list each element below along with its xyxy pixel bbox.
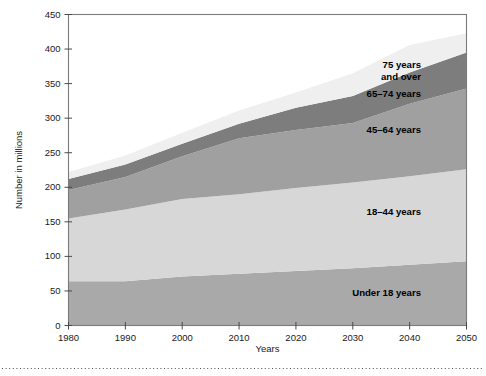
- x-tick-label: 2000: [172, 332, 193, 343]
- series-label: 45–64 years: [367, 124, 421, 135]
- x-tick-label: 2030: [342, 332, 363, 343]
- series-label: 65–74 years: [367, 88, 421, 99]
- y-tick-label: 50: [50, 285, 61, 296]
- y-tick-label: 0: [55, 320, 60, 331]
- series-label: Under 18 years: [352, 287, 421, 298]
- x-axis-title: Years: [256, 343, 280, 354]
- y-tick-label: 450: [45, 9, 61, 20]
- y-tick-label: 200: [45, 181, 61, 192]
- x-tick-label: 2020: [285, 332, 306, 343]
- x-tick-label: 2050: [456, 332, 477, 343]
- y-tick-label: 100: [45, 250, 61, 261]
- series-label: 18–44 years: [367, 206, 421, 217]
- x-tick-label: 1990: [115, 332, 136, 343]
- y-tick-label: 150: [45, 216, 61, 227]
- y-tick-label: 250: [45, 147, 61, 158]
- series-label: 75 yearsand over: [381, 59, 421, 82]
- y-tick-label: 400: [45, 43, 61, 54]
- y-tick-label: 350: [45, 78, 61, 89]
- x-tick-label: 1980: [58, 332, 79, 343]
- x-tick-label: 2010: [229, 332, 250, 343]
- y-axis-title: Number in millions: [13, 131, 24, 209]
- x-tick-label: 2040: [399, 332, 420, 343]
- chart-figure: 050100150200250300350400450 198019902000…: [0, 0, 486, 376]
- y-tick-label: 300: [45, 112, 61, 123]
- stacked-area-chart: 050100150200250300350400450 198019902000…: [0, 0, 486, 376]
